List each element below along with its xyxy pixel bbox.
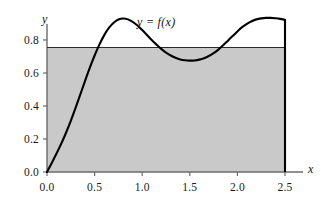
chart-svg	[0, 0, 321, 211]
x-axis-tick-label: 1.5	[182, 181, 197, 193]
y-axis-tick-label: 0.0	[8, 166, 39, 178]
y-axis-title: y	[42, 12, 47, 27]
curve-label: y = f(x)	[137, 15, 175, 30]
y-axis-tick-label: 0.8	[8, 34, 39, 46]
y-axis-tick-label: 0.4	[8, 100, 39, 112]
x-axis-tick-label: 2.0	[230, 181, 245, 193]
y-axis-tick-label: 0.6	[8, 67, 39, 79]
shaded-region-group	[47, 47, 285, 172]
y-axis-tick-label: 0.2	[8, 133, 39, 145]
x-axis-tick-label: 2.5	[278, 181, 293, 193]
x-axis-tick-label: 1.0	[135, 181, 150, 193]
x-axis-title: x	[308, 162, 313, 177]
shaded-region	[47, 47, 285, 172]
x-axis-tick-label: 0.5	[87, 181, 102, 193]
x-axis-tick-label: 0.0	[40, 181, 55, 193]
figure-chart-area: 0.00.20.40.60.8 0.00.51.01.52.02.5 y x y…	[0, 0, 321, 211]
